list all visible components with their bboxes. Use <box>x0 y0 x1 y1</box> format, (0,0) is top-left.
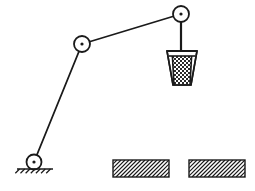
mechanism-diagram <box>0 0 255 191</box>
ground-pivot-center-dot <box>32 160 35 163</box>
middle-joint-center-dot <box>80 42 83 45</box>
middle-joint[interactable] <box>74 36 90 52</box>
ground-pivot[interactable] <box>27 155 42 170</box>
diagram-canvas <box>0 0 255 191</box>
top-joint-center-dot <box>179 12 182 15</box>
top-joint[interactable] <box>173 6 189 22</box>
